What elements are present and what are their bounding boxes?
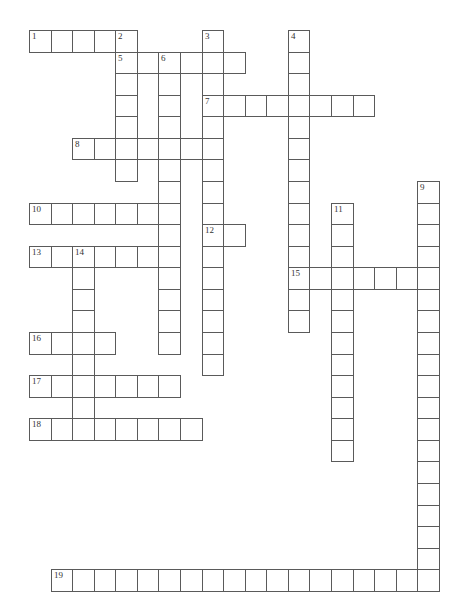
grid-cell[interactable]	[223, 569, 246, 592]
grid-cell[interactable]	[374, 267, 397, 290]
grid-cell[interactable]	[137, 569, 159, 592]
grid-cell[interactable]	[331, 418, 354, 441]
grid-cell[interactable]: 19	[51, 569, 73, 592]
grid-cell[interactable]	[137, 138, 159, 160]
grid-cell[interactable]	[94, 332, 116, 355]
grid-cell[interactable]	[202, 73, 224, 96]
grid-cell[interactable]	[72, 354, 95, 376]
grid-cell[interactable]	[417, 418, 440, 441]
grid-cell[interactable]	[331, 267, 354, 290]
grid-cell[interactable]	[158, 203, 181, 225]
grid-cell[interactable]	[331, 332, 354, 355]
grid-cell[interactable]	[94, 375, 116, 398]
grid-cell[interactable]	[158, 267, 181, 290]
grid-cell[interactable]	[288, 246, 310, 268]
grid-cell[interactable]	[223, 224, 246, 247]
grid-cell[interactable]	[72, 30, 95, 53]
grid-cell[interactable]	[72, 267, 95, 290]
grid-cell[interactable]	[202, 289, 224, 311]
grid-cell[interactable]	[331, 289, 354, 311]
grid-cell[interactable]	[158, 224, 181, 247]
grid-cell[interactable]: 17	[29, 375, 52, 398]
grid-cell[interactable]	[94, 138, 116, 160]
grid-cell[interactable]	[158, 332, 181, 355]
grid-cell[interactable]	[72, 310, 95, 333]
grid-cell[interactable]	[158, 159, 181, 182]
grid-cell[interactable]: 3	[202, 30, 224, 53]
grid-cell[interactable]	[331, 224, 354, 247]
grid-cell[interactable]: 10	[29, 203, 52, 225]
grid-cell[interactable]	[417, 246, 440, 268]
grid-cell[interactable]	[266, 95, 289, 117]
grid-cell[interactable]: 8	[72, 138, 95, 160]
grid-cell[interactable]	[94, 30, 116, 53]
grid-cell[interactable]	[288, 73, 310, 96]
grid-cell[interactable]	[288, 203, 310, 225]
grid-cell[interactable]	[417, 483, 440, 506]
grid-cell[interactable]	[94, 246, 116, 268]
grid-cell[interactable]: 2	[115, 30, 138, 53]
grid-cell[interactable]	[137, 375, 159, 398]
grid-cell[interactable]	[331, 440, 354, 462]
grid-cell[interactable]	[396, 569, 418, 592]
grid-cell[interactable]	[245, 95, 267, 117]
grid-cell[interactable]	[158, 73, 181, 96]
grid-cell[interactable]	[288, 224, 310, 247]
grid-cell[interactable]	[331, 397, 354, 419]
grid-cell[interactable]	[137, 203, 159, 225]
grid-cell[interactable]	[374, 569, 397, 592]
grid-cell[interactable]	[115, 569, 138, 592]
grid-cell[interactable]	[288, 138, 310, 160]
grid-cell[interactable]: 18	[29, 418, 52, 441]
grid-cell[interactable]	[417, 354, 440, 376]
grid-cell[interactable]	[72, 569, 95, 592]
grid-cell[interactable]	[417, 289, 440, 311]
grid-cell[interactable]	[417, 461, 440, 484]
grid-cell[interactable]	[417, 526, 440, 549]
grid-cell[interactable]: 7	[202, 95, 224, 117]
grid-cell[interactable]: 5	[115, 52, 138, 74]
grid-cell[interactable]	[417, 310, 440, 333]
grid-cell[interactable]	[51, 418, 73, 441]
grid-cell[interactable]	[417, 440, 440, 462]
grid-cell[interactable]	[202, 354, 224, 376]
grid-cell[interactable]	[331, 569, 354, 592]
grid-cell[interactable]	[309, 569, 332, 592]
grid-cell[interactable]	[288, 310, 310, 333]
grid-cell[interactable]	[180, 418, 203, 441]
grid-cell[interactable]	[331, 375, 354, 398]
grid-cell[interactable]	[115, 73, 138, 96]
grid-cell[interactable]	[115, 203, 138, 225]
grid-cell[interactable]	[94, 569, 116, 592]
grid-cell[interactable]	[51, 246, 73, 268]
grid-cell[interactable]	[331, 354, 354, 376]
grid-cell[interactable]	[353, 95, 375, 117]
grid-cell[interactable]	[158, 138, 181, 160]
grid-cell[interactable]	[202, 159, 224, 182]
grid-cell[interactable]	[396, 267, 418, 290]
grid-cell[interactable]	[245, 569, 267, 592]
grid-cell[interactable]	[417, 267, 440, 290]
grid-cell[interactable]	[137, 52, 159, 74]
grid-cell[interactable]	[202, 332, 224, 355]
grid-cell[interactable]	[94, 418, 116, 441]
grid-cell[interactable]	[72, 332, 95, 355]
grid-cell[interactable]	[223, 52, 246, 74]
grid-cell[interactable]	[94, 203, 116, 225]
grid-cell[interactable]	[158, 375, 181, 398]
grid-cell[interactable]	[115, 246, 138, 268]
grid-cell[interactable]	[180, 52, 203, 74]
grid-cell[interactable]	[417, 548, 440, 570]
grid-cell[interactable]	[51, 30, 73, 53]
grid-cell[interactable]	[417, 203, 440, 225]
grid-cell[interactable]	[202, 310, 224, 333]
grid-cell[interactable]	[158, 418, 181, 441]
grid-cell[interactable]	[72, 397, 95, 419]
grid-cell[interactable]	[115, 138, 138, 160]
grid-cell[interactable]	[288, 569, 310, 592]
grid-cell[interactable]	[158, 569, 181, 592]
grid-cell[interactable]	[288, 52, 310, 74]
grid-cell[interactable]	[72, 418, 95, 441]
grid-cell[interactable]	[51, 332, 73, 355]
grid-cell[interactable]	[331, 95, 354, 117]
